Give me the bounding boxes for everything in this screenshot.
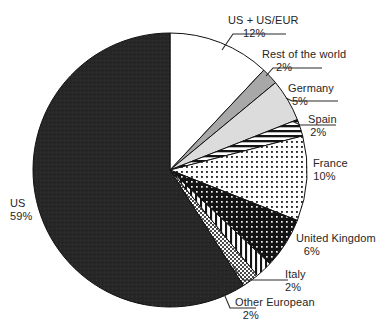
- slice-label-italy: Italy 2%: [285, 268, 313, 294]
- slice-label-united-kingdom: United Kingdom 6%: [296, 232, 376, 258]
- slice-label-value: 59%: [10, 210, 32, 223]
- pie-chart: US + US/EUR 12% Rest of the world 2% Ger…: [0, 0, 391, 329]
- slice-label-name: US: [10, 197, 32, 210]
- slice-label-name: Rest of the world: [262, 48, 346, 61]
- pie-slices-group: [33, 33, 307, 307]
- slice-label-value: 12%: [228, 27, 298, 40]
- slice-label-name: Other European: [235, 296, 315, 309]
- slice-label-name: United Kingdom: [296, 232, 376, 245]
- slice-label-value: 2%: [262, 61, 346, 74]
- slice-label-value: 10%: [313, 170, 348, 183]
- slice-label-name: Germany: [288, 82, 334, 95]
- slice-label-spain: Spain 2%: [308, 113, 337, 139]
- slice-label-germany: Germany 5%: [288, 82, 334, 108]
- slice-label-name: France: [313, 157, 348, 170]
- slice-label-rest-of-the-world: Rest of the world 2%: [262, 48, 346, 74]
- slice-label-us: US 59%: [10, 197, 32, 223]
- slice-label-name: US + US/EUR: [228, 14, 298, 27]
- slice-label-other-european: Other European 2%: [235, 296, 315, 322]
- slice-label-value: 6%: [296, 245, 376, 258]
- slice-label-name: Italy: [285, 268, 313, 281]
- slice-label-value: 2%: [235, 309, 315, 322]
- slice-label-france: France 10%: [313, 157, 348, 183]
- slice-label-value: 2%: [308, 126, 337, 139]
- slice-label-name: Spain: [308, 113, 337, 126]
- slice-label-us-useur: US + US/EUR 12%: [228, 14, 298, 40]
- slice-label-value: 2%: [285, 281, 313, 294]
- slice-label-value: 5%: [288, 95, 334, 108]
